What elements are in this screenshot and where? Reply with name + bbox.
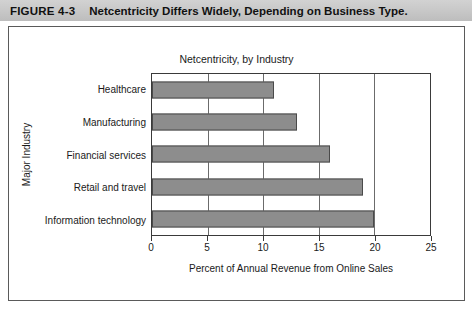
bar xyxy=(152,146,330,163)
x-axis-title: Percent of Annual Revenue from Online Sa… xyxy=(151,263,431,274)
bar-chart: Netcentricity, by Industry Major Industr… xyxy=(9,27,464,300)
x-axis-tick-label: 10 xyxy=(257,242,268,253)
figure-caption-bar: FIGURE 4-3 Netcentricity Differs Widely,… xyxy=(0,0,472,21)
y-axis-tick-labels: HealthcareManufacturingFinancial service… xyxy=(9,73,146,236)
bar-row xyxy=(152,74,430,106)
y-axis-tick-label: Financial services xyxy=(67,149,146,160)
figure-number: FIGURE 4-3 xyxy=(10,5,75,17)
bar-row xyxy=(152,171,430,203)
x-axis-tick-label: 0 xyxy=(148,242,154,253)
chart-title: Netcentricity, by Industry xyxy=(9,53,464,65)
bar xyxy=(152,210,374,227)
y-axis-tick-label: Information technology xyxy=(45,214,146,225)
x-axis-tick xyxy=(151,236,152,241)
y-axis-tick-label: Healthcare xyxy=(98,84,146,95)
bar-row xyxy=(152,106,430,138)
x-axis-tick xyxy=(263,236,264,241)
x-axis-tick-labels: 0510152025 xyxy=(151,242,431,256)
bar xyxy=(152,178,363,195)
x-axis-tick-label: 5 xyxy=(204,242,210,253)
x-axis-tick-label: 20 xyxy=(369,242,380,253)
bar xyxy=(152,82,274,99)
bar-row xyxy=(152,138,430,170)
x-axis-tick xyxy=(375,236,376,241)
plot-area xyxy=(151,73,431,236)
x-axis-tick-label: 15 xyxy=(313,242,324,253)
figure-panel: Netcentricity, by Industry Major Industr… xyxy=(8,26,465,301)
figure-title: Netcentricity Differs Widely, Depending … xyxy=(89,5,407,17)
bar xyxy=(152,114,297,131)
bar-row xyxy=(152,203,430,235)
y-axis-tick-label: Manufacturing xyxy=(83,116,146,127)
x-axis-tick xyxy=(431,236,432,241)
y-axis-tick-label: Retail and travel xyxy=(74,182,146,193)
x-axis-tick-label: 25 xyxy=(425,242,436,253)
x-axis-tick xyxy=(207,236,208,241)
x-axis-tick xyxy=(319,236,320,241)
